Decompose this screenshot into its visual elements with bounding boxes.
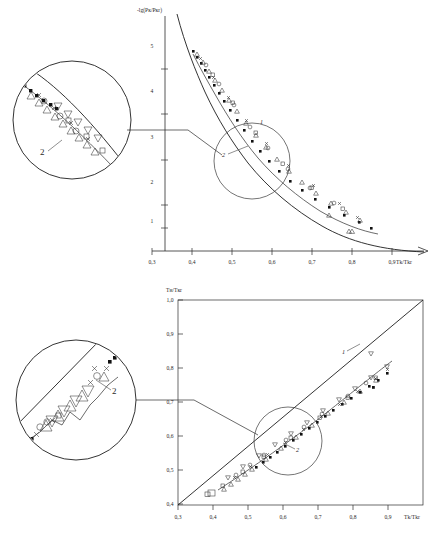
bottom-curve-label-2: 2 <box>296 446 299 453</box>
top-x-axis-label: Tk/Tkr <box>396 259 412 265</box>
bottom-ytick-05: 0,5 <box>167 467 174 473</box>
bottom-y-ticks: 1,0 0,9 0,8 0,7 0,6 0,5 0,4 <box>167 297 184 507</box>
bottom-ytick-09: 0,9 <box>167 331 174 337</box>
bottom-xtick-5: 0,8 <box>350 514 357 520</box>
top-xtick-6: 0,9 <box>389 259 396 265</box>
top-ytick-4: 4 <box>151 88 154 94</box>
bottom-plot-lens-circle <box>254 407 322 475</box>
bottom-curve-label-1: 1 <box>342 348 345 355</box>
top-xtick-3: 0,6 <box>269 259 276 265</box>
top-curve-label-2: 2 <box>222 151 225 158</box>
bottom-xtick-1: 0,4 <box>210 514 217 520</box>
bottom-panel: Tн/Tкr 1,0 0,9 0,8 0,7 0,6 0,5 0,4 <box>14 287 423 520</box>
bottom-ytick-06: 0,6 <box>167 433 174 439</box>
top-curve-2-leader <box>228 146 248 154</box>
top-inset-label-leader <box>48 140 62 151</box>
top-inset-leader <box>127 130 222 155</box>
top-data-band-2 <box>193 54 378 234</box>
bottom-xtick-3: 0,6 <box>280 514 287 520</box>
bottom-xtick-0: 0,3 <box>175 514 182 520</box>
top-ytick-2: 2 <box>151 179 154 185</box>
bottom-xtick-6: 0,9 <box>385 514 392 520</box>
bottom-xtick-4: 0,7 <box>315 514 322 520</box>
top-xtick-1: 0,4 <box>189 259 196 265</box>
bottom-x-axis-label: Tk/Tkr <box>404 514 420 520</box>
top-inset: 2 <box>13 61 131 179</box>
top-xtick-2: 0,5 <box>229 259 236 265</box>
bottom-inset-leader <box>136 400 258 435</box>
bottom-x-ticks: 0,3 0,4 0,5 0,6 0,7 0,8 0,9 <box>175 505 392 520</box>
bottom-diagonal-line-1 <box>178 300 423 505</box>
top-inset-label-2: 2 <box>40 147 45 157</box>
top-panel: -lg(Pк/Pкr) 5 4 3 2 1 0,3 <box>13 7 428 265</box>
bottom-scatter-markers <box>205 352 389 497</box>
figure-svg: -lg(Pк/Pкr) 5 4 3 2 1 0,3 <box>0 0 439 540</box>
top-inset-band-2 <box>13 78 112 166</box>
bottom-inset-label-leader <box>96 380 111 390</box>
top-ytick-3: 3 <box>151 134 154 140</box>
top-ytick-1: 1 <box>151 218 154 224</box>
bottom-inset-circle <box>16 340 136 460</box>
bottom-curve-1-leader <box>347 344 360 351</box>
bottom-xtick-2: 0,5 <box>245 514 252 520</box>
bottom-ytick-08: 0,8 <box>167 365 174 371</box>
top-inset-curve-1 <box>20 63 118 156</box>
top-xtick-0: 0,3 <box>149 259 156 265</box>
bottom-inset-band-2 <box>18 377 118 447</box>
top-ytick-5: 5 <box>151 43 154 49</box>
top-xtick-4: 0,7 <box>309 259 316 265</box>
top-inset-circle <box>13 61 131 179</box>
top-y-axis-label: -lg(Pк/Pкr) <box>137 7 162 14</box>
bottom-inset-line-1 <box>14 340 100 428</box>
bottom-y-axis-label: Tн/Tкr <box>166 287 182 293</box>
top-theory-curve-1 <box>177 14 424 252</box>
figure-root: -lg(Pк/Pкr) 5 4 3 2 1 0,3 <box>0 0 439 540</box>
bottom-inset-label-2: 2 <box>112 386 117 396</box>
top-x-ticks: 0,3 0,4 0,5 0,6 0,7 0,8 0,9 <box>149 248 396 265</box>
bottom-inset: 2 <box>14 340 136 460</box>
top-xtick-5: 0,8 <box>349 259 356 265</box>
bottom-ytick-10: 1,0 <box>167 297 174 303</box>
bottom-ytick-04: 0,4 <box>167 501 174 507</box>
